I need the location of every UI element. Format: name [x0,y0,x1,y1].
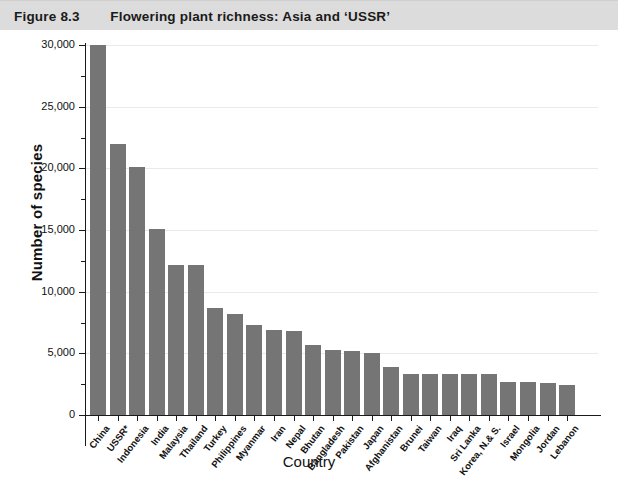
x-axis-tick [118,416,119,421]
y-axis-tick-major [79,107,86,108]
y-axis-tick-label: 30,000 [0,38,75,50]
bar [559,385,575,415]
x-axis-tick [567,416,568,421]
x-axis-tick [235,416,236,421]
y-axis-tick-label: 0 [0,408,75,420]
x-axis-tick [294,416,295,421]
bar [129,167,145,415]
bar [383,367,399,415]
y-axis-tick-label: 10,000 [0,285,75,297]
x-axis-tick [176,416,177,421]
bar [168,265,184,415]
bar [520,382,536,415]
x-axis-tick [98,416,99,421]
x-axis-line [85,415,601,416]
y-axis-tick-major [79,353,86,354]
y-axis-title: Number of species [28,113,45,313]
x-axis-tick [196,416,197,421]
bar [246,325,262,415]
x-axis-tick [450,416,451,421]
x-axis-tick [469,416,470,421]
x-axis-tick [489,416,490,421]
y-axis-tick-major [79,230,86,231]
bar [540,383,556,415]
y-axis-tick-label: 5,000 [0,346,75,358]
bar [207,308,223,415]
y-axis-tick-label: 15,000 [0,223,75,235]
x-axis-tick [528,416,529,421]
bar [266,330,282,415]
y-axis-tick-label: 25,000 [0,100,75,112]
x-axis-tick [274,416,275,421]
bar-chart: Number of species 05,00010,00015,00020,0… [0,29,618,487]
x-axis-title: Country [0,453,618,470]
bar [403,374,419,415]
x-axis-tick [391,416,392,421]
x-axis-tick [313,416,314,421]
bar [110,144,126,415]
x-axis-tick [137,416,138,421]
x-axis-tick [352,416,353,421]
x-axis-tick [157,416,158,421]
x-axis-tick [215,416,216,421]
x-axis-tick [548,416,549,421]
bar [481,374,497,415]
bar [364,353,380,415]
bar [325,350,341,415]
bar [227,314,243,415]
figure-caption-band: Figure 8.3 Flowering plant richness: Asi… [0,0,618,30]
y-axis-tick-major [79,45,86,46]
bar [500,382,516,415]
bar [188,265,204,415]
bar [461,374,477,415]
x-axis-tick [333,416,334,421]
bar [286,331,302,415]
y-axis-tick-major [79,292,86,293]
y-axis-tick-major [79,168,86,169]
figure-title: Flowering plant richness: Asia and ‘USSR… [110,9,390,24]
x-axis-tick [430,416,431,421]
x-axis-tick [372,416,373,421]
y-axis-tick-label: 20,000 [0,161,75,173]
x-axis-tick [508,416,509,421]
bar [149,229,165,415]
plot-area [86,45,598,415]
figure-number: Figure 8.3 [14,9,80,24]
bar [422,374,438,415]
bar [344,351,360,415]
figure-caption: Figure 8.3 Flowering plant richness: Asi… [14,7,390,25]
x-axis-tick [254,416,255,421]
bar [90,45,106,415]
x-axis-tick [411,416,412,421]
bar [442,374,458,415]
y-axis-tick-major [79,415,86,416]
bar [305,345,321,415]
